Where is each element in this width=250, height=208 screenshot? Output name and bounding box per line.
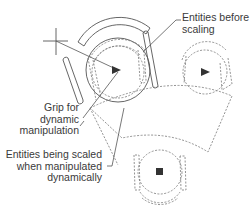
grip-leader-tick bbox=[80, 121, 84, 126]
crosshair-cursor-icon bbox=[43, 28, 68, 55]
original-entities bbox=[63, 17, 158, 103]
label-line: manipulation bbox=[19, 125, 79, 137]
triangle-grip-icon[interactable] bbox=[112, 66, 121, 74]
triangle-grip-icon[interactable] bbox=[201, 68, 210, 76]
bottom-entity bbox=[134, 150, 186, 205]
label-line: dynamically bbox=[6, 172, 102, 184]
grip-leader bbox=[83, 72, 118, 118]
scaled-leader bbox=[112, 108, 124, 166]
label-entities-before: Entities before scaling bbox=[182, 12, 249, 35]
square-grip-icon[interactable] bbox=[156, 168, 163, 175]
label-line: Entities before bbox=[182, 12, 249, 24]
label-line: scaling bbox=[182, 24, 249, 36]
scaled-arc-sector bbox=[90, 85, 232, 152]
label-grip: Grip for dynamic manipulation bbox=[19, 102, 79, 137]
label-entities-scaled: Entities being scaled when manipulated d… bbox=[6, 149, 102, 184]
label-line: Grip for bbox=[19, 102, 79, 114]
label-line: Entities being scaled bbox=[6, 149, 102, 161]
